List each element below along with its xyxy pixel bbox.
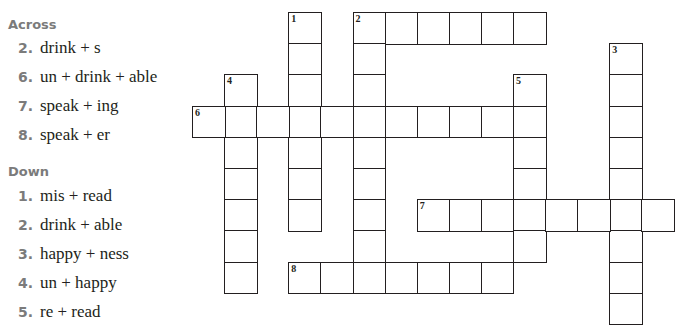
crossword-cell[interactable] (288, 106, 322, 139)
cell-number: 5 (516, 75, 521, 86)
crossword-cell[interactable] (353, 137, 387, 170)
crossword-cell[interactable] (449, 262, 483, 295)
crossword-cell[interactable] (545, 199, 579, 232)
crossword-cell[interactable] (353, 199, 387, 232)
crossword-cell[interactable] (224, 230, 258, 263)
crossword-cell[interactable] (449, 106, 483, 139)
crossword-cell[interactable] (513, 12, 547, 45)
crossword-cell[interactable] (385, 106, 419, 139)
crossword-cell[interactable] (417, 106, 451, 139)
crossword-cell[interactable] (288, 199, 322, 232)
crossword-cell[interactable] (353, 230, 387, 263)
crossword-cell[interactable]: 4 (224, 74, 258, 107)
crossword-cell[interactable] (224, 262, 258, 295)
crossword-cell[interactable] (288, 168, 322, 201)
crossword-cell[interactable] (481, 106, 515, 139)
crossword-cell[interactable] (641, 199, 675, 232)
crossword-cell[interactable]: 2 (353, 12, 387, 45)
crossword-cell[interactable] (353, 43, 387, 76)
crossword-cell[interactable] (481, 12, 515, 45)
crossword-cell[interactable] (417, 12, 451, 45)
crossword-cell[interactable] (609, 293, 643, 326)
crossword-cell[interactable] (609, 137, 643, 170)
crossword-cell[interactable] (224, 106, 258, 139)
crossword-cell[interactable] (385, 262, 419, 295)
cell-number: 3 (612, 44, 617, 55)
crossword-cell[interactable]: 7 (417, 199, 451, 232)
crossword-cell[interactable] (417, 262, 451, 295)
crossword-cell[interactable] (609, 74, 643, 107)
crossword-cell[interactable]: 5 (513, 74, 547, 107)
crossword-cell[interactable] (449, 12, 483, 45)
crossword-cell[interactable] (449, 199, 483, 232)
crossword-cell[interactable] (513, 137, 547, 170)
crossword-grid: 12345678 (0, 0, 684, 327)
crossword-cell[interactable] (256, 106, 290, 139)
crossword-cell[interactable] (224, 168, 258, 201)
crossword-cell[interactable]: 8 (288, 262, 322, 295)
crossword-cell[interactable] (609, 199, 643, 232)
crossword-cell[interactable] (288, 137, 322, 170)
crossword-cell[interactable] (320, 262, 354, 295)
cell-number: 8 (291, 263, 296, 274)
crossword-cell[interactable] (385, 12, 419, 45)
crossword-cell[interactable]: 6 (192, 106, 226, 139)
crossword-cell[interactable] (609, 230, 643, 263)
crossword-cell[interactable]: 3 (609, 43, 643, 76)
cell-number: 4 (227, 75, 232, 86)
cell-number: 6 (195, 107, 200, 118)
crossword-cell[interactable] (224, 199, 258, 232)
cell-number: 1 (291, 13, 296, 24)
crossword-cell[interactable]: 1 (288, 12, 322, 45)
crossword-cell[interactable] (577, 199, 611, 232)
crossword-cell[interactable] (320, 106, 354, 139)
crossword-cell[interactable] (609, 168, 643, 201)
crossword-cell[interactable] (353, 262, 387, 295)
crossword-cell[interactable] (353, 106, 387, 139)
crossword-cell[interactable] (513, 230, 547, 263)
crossword-cell[interactable] (513, 106, 547, 139)
crossword-cell[interactable] (353, 168, 387, 201)
crossword-cell[interactable] (609, 106, 643, 139)
cell-number: 7 (420, 200, 425, 211)
crossword-cell[interactable] (353, 74, 387, 107)
cell-number: 2 (356, 13, 361, 24)
crossword-cell[interactable] (513, 199, 547, 232)
crossword-cell[interactable] (481, 199, 515, 232)
crossword-cell[interactable] (481, 262, 515, 295)
crossword-cell[interactable] (513, 168, 547, 201)
crossword-cell[interactable] (224, 137, 258, 170)
crossword-cell[interactable] (609, 262, 643, 295)
crossword-cell[interactable] (288, 74, 322, 107)
crossword-cell[interactable] (288, 43, 322, 76)
